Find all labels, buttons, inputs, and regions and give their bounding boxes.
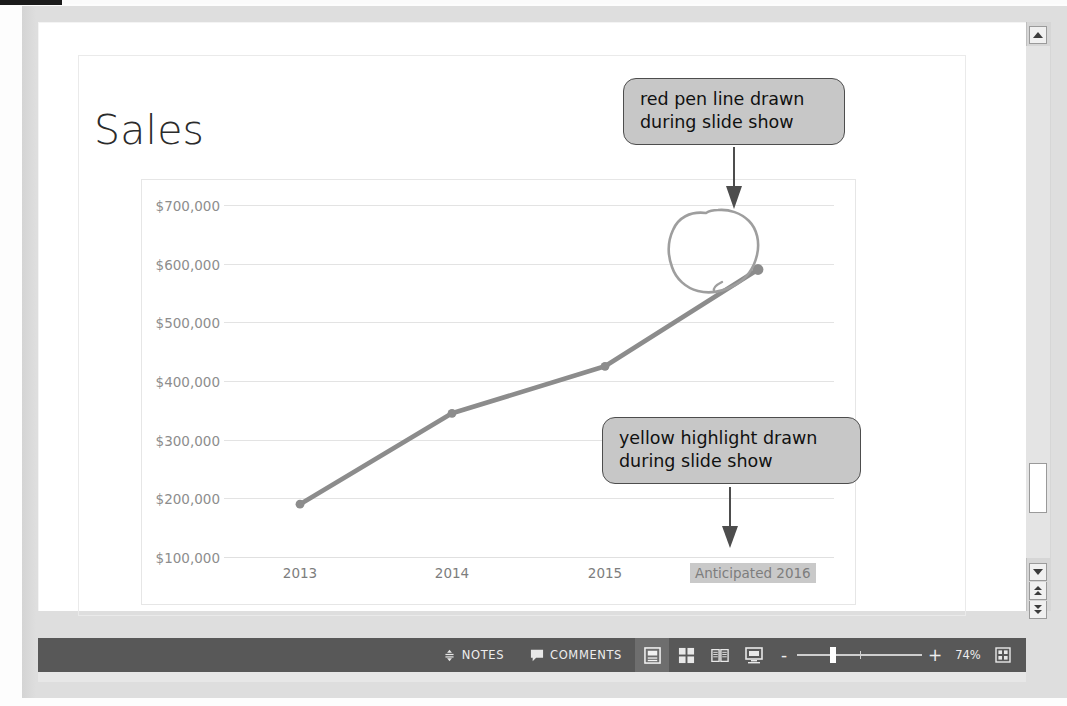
data-point-2014 [448, 409, 457, 418]
normal-view-button[interactable] [635, 638, 669, 672]
callout-line-1: red pen line drawn [640, 88, 828, 111]
next-slide-double-down-icon [1034, 605, 1042, 614]
page-top-edge-left [0, 0, 62, 5]
window-bottom-edge [38, 672, 1026, 682]
fit-slide-to-window-button[interactable] [988, 638, 1018, 672]
previous-slide-double-up-icon [1034, 586, 1042, 595]
comments-button[interactable]: COMMENTS [517, 638, 635, 672]
scroll-down-arrow-icon [1033, 569, 1043, 575]
data-point-2015 [601, 362, 610, 371]
slide-canvas[interactable]: Sales $700,000 $600,000 $500,000 $400,00… [38, 22, 1026, 611]
page-top-edge-right [62, 0, 1067, 4]
slide-show-icon [745, 647, 763, 664]
next-slide-button[interactable] [1029, 601, 1047, 619]
data-point-2013 [296, 500, 305, 509]
callout-line-1: yellow highlight drawn [619, 427, 844, 450]
callout-line-2: during slide show [640, 111, 828, 134]
series-sales [142, 180, 857, 606]
chart-object[interactable]: $700,000 $600,000 $500,000 $400,000 $300… [141, 179, 856, 605]
notes-updown-icon [443, 649, 456, 662]
x-axis-labels: 2013 2014 2015 Anticipated 2016 [224, 565, 834, 595]
data-point-anticipated-2016 [753, 264, 764, 275]
slide-sorter-view-button[interactable] [669, 638, 703, 672]
notes-button[interactable]: NOTES [430, 638, 517, 672]
x-axis-tick-label: 2013 [250, 565, 350, 581]
zoom-out-button[interactable]: - [775, 647, 793, 664]
powerpoint-window: Sales $700,000 $600,000 $500,000 $400,00… [0, 0, 1067, 706]
scroll-down-button[interactable] [1029, 563, 1047, 581]
notes-button-label: NOTES [462, 648, 504, 662]
slide-sorter-icon [678, 647, 695, 664]
slide-show-view-button[interactable] [737, 638, 771, 672]
reading-view-icon [711, 647, 729, 663]
normal-view-icon [644, 647, 661, 664]
x-axis-tick-label: 2015 [555, 565, 655, 581]
zoom-in-button[interactable]: + [926, 647, 944, 664]
slide-title[interactable]: Sales [94, 106, 204, 154]
scroll-up-button[interactable] [1029, 26, 1047, 44]
x-axis-tick-label: 2014 [402, 565, 502, 581]
zoom-slider-track[interactable] [797, 654, 922, 656]
reading-view-button[interactable] [703, 638, 737, 672]
zoom-slider-handle[interactable] [830, 647, 836, 663]
zoom-slider-100-tick [860, 651, 861, 659]
x-axis-tick-label-highlighted: Anticipated 2016 [690, 563, 816, 583]
fit-slide-to-window-icon [995, 647, 1011, 663]
status-bar: NOTES COMMENTS [38, 638, 1026, 672]
zoom-level-label[interactable]: 74% [948, 648, 988, 662]
zoom-slider[interactable]: - + [771, 638, 948, 672]
previous-slide-button[interactable] [1029, 582, 1047, 600]
callout-red-pen: red pen line drawn during slide show [623, 78, 845, 145]
comments-button-label: COMMENTS [550, 648, 622, 662]
callout-yellow-highlight: yellow highlight drawn during slide show [602, 417, 861, 484]
comment-bubble-icon [530, 649, 544, 662]
callout-line-2: during slide show [619, 450, 844, 473]
scrollbar-thumb[interactable] [1029, 463, 1047, 513]
scroll-up-arrow-icon [1033, 32, 1043, 38]
